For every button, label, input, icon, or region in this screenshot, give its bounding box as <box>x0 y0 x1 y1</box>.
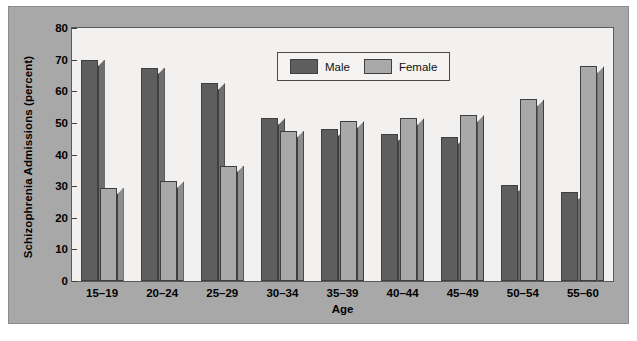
x-axis-title: Age <box>71 303 614 315</box>
bar-male-45–49 <box>441 137 458 281</box>
y-tick-label: 60 <box>46 85 68 97</box>
y-tick-label: 80 <box>46 22 68 34</box>
bar-side-face <box>417 118 424 281</box>
y-axis-title: Schizophrenia Admissions (percent) <box>19 7 37 307</box>
bar-side-face <box>537 99 544 281</box>
bar-front-face <box>520 99 537 281</box>
bar-female-35–39 <box>340 121 357 281</box>
legend-label-female: Female <box>399 61 437 73</box>
bar-front-face <box>160 181 177 281</box>
bar-front-face <box>280 131 297 281</box>
bar-male-35–39 <box>321 129 338 281</box>
bar-side-face <box>297 131 304 281</box>
bar-side-face <box>357 121 364 281</box>
bar-female-50–54 <box>520 99 537 281</box>
bar-front-face <box>561 192 578 281</box>
bar-side-face <box>237 166 244 281</box>
y-tick-label: 50 <box>46 117 68 129</box>
bar-front-face <box>220 166 237 281</box>
bar-group <box>132 28 192 281</box>
y-tick-label: 0 <box>46 275 68 287</box>
bar-male-30–34 <box>261 118 278 281</box>
y-tick-label: 10 <box>46 243 68 255</box>
bar-front-face <box>400 118 417 281</box>
bar-male-25–29 <box>201 83 218 281</box>
bar-front-face <box>100 188 117 281</box>
y-tick-label: 70 <box>46 54 68 66</box>
legend-item-female: Female <box>364 59 437 74</box>
bar-front-face <box>261 118 278 281</box>
chart-legend: Male Female <box>277 52 450 81</box>
bar-front-face <box>201 83 218 281</box>
bar-group <box>553 28 613 281</box>
x-tick-label: 55–60 <box>548 287 618 299</box>
legend-item-male: Male <box>290 59 350 74</box>
legend-swatch-male <box>290 59 318 74</box>
bar-male-40–44 <box>381 134 398 281</box>
y-tick-label: 40 <box>46 149 68 161</box>
bar-side-face <box>177 181 184 281</box>
legend-label-male: Male <box>325 61 350 73</box>
bar-female-55–60 <box>580 66 597 281</box>
bar-male-55–60 <box>561 192 578 281</box>
bar-male-50–54 <box>501 185 518 281</box>
bar-group <box>72 28 132 281</box>
bar-front-face <box>381 134 398 281</box>
y-tick-label: 30 <box>46 180 68 192</box>
bar-group <box>493 28 553 281</box>
bar-female-45–49 <box>460 115 477 281</box>
y-tick-label: 20 <box>46 212 68 224</box>
bar-male-20–24 <box>141 68 158 281</box>
bar-front-face <box>81 60 98 281</box>
bar-male-15–19 <box>81 60 98 281</box>
bar-side-face <box>477 115 484 281</box>
bar-side-face <box>117 188 124 281</box>
bar-front-face <box>340 121 357 281</box>
bar-front-face <box>321 129 338 281</box>
bar-group <box>192 28 252 281</box>
y-tick-mark <box>72 281 77 282</box>
chart-figure: Schizophrenia Admissions (percent) 01020… <box>8 6 629 324</box>
bar-female-15–19 <box>100 188 117 281</box>
bar-female-25–29 <box>220 166 237 281</box>
bar-front-face <box>441 137 458 281</box>
bar-female-30–34 <box>280 131 297 281</box>
bar-female-20–24 <box>160 181 177 281</box>
bar-female-40–44 <box>400 118 417 281</box>
bar-front-face <box>141 68 158 281</box>
bar-front-face <box>580 66 597 281</box>
bar-front-face <box>460 115 477 281</box>
bar-side-face <box>597 66 604 281</box>
legend-swatch-female <box>364 59 392 74</box>
bar-front-face <box>501 185 518 281</box>
